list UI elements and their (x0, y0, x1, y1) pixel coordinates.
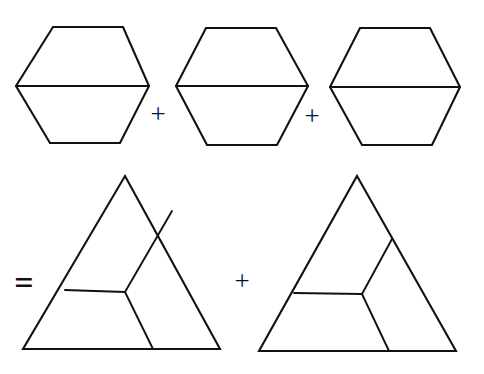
shape-hexagon-3 (330, 28, 460, 145)
shape-triangle-2 (259, 176, 456, 351)
triangle-1-divider-left (65, 290, 125, 292)
triangle-2-outline (259, 176, 456, 351)
plus-operator-3: + (234, 268, 249, 295)
shape-triangle-1 (23, 176, 220, 349)
geometry-figure (0, 0, 484, 374)
shape-hexagon-1 (16, 27, 149, 143)
triangle-1-divider-upper-right (125, 211, 172, 292)
plus-operator-1: + (150, 101, 165, 128)
figure-canvas: + + = + (0, 0, 484, 374)
triangle-1-outline (23, 176, 220, 349)
triangle-2-divider-upper-right (362, 239, 392, 294)
triangle-1-divider-lower-right (125, 292, 153, 349)
shape-hexagon-2 (176, 28, 308, 145)
triangle-2-divider-left (294, 293, 362, 294)
hexagon-1-outline (16, 27, 149, 143)
equals-operator: = (14, 266, 33, 300)
plus-operator-2: + (304, 103, 319, 130)
triangle-2-divider-lower-right (362, 294, 389, 351)
